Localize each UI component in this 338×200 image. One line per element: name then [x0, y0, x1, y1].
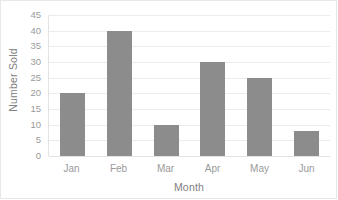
- y-axis-tick-label: 0: [36, 151, 41, 161]
- y-axis-tick-label: 5: [36, 136, 41, 146]
- x-axis-tick-label-mar: Mar: [142, 161, 189, 177]
- y-axis-tick-label: 40: [30, 26, 41, 36]
- y-axis-tick-label: 45: [30, 10, 41, 20]
- y-axis-tick-label: 15: [30, 104, 41, 114]
- x-axis-tick-label-feb: Feb: [95, 161, 142, 177]
- bar-may[interactable]: [247, 78, 272, 156]
- bar-feb[interactable]: [107, 31, 132, 156]
- y-axis-tick-label: 25: [30, 73, 41, 83]
- y-axis-tick-labels: 454035302520151050: [22, 9, 44, 159]
- bar-jun[interactable]: [294, 131, 319, 156]
- x-axis-tick-label-jan: Jan: [48, 161, 95, 177]
- bar-mar[interactable]: [154, 125, 179, 156]
- bar-apr[interactable]: [200, 62, 225, 156]
- y-axis-tick-label: 20: [30, 89, 41, 99]
- x-axis-tick-label-jun: Jun: [283, 161, 330, 177]
- y-axis-tick-label: 10: [30, 120, 41, 130]
- bar-slot: [96, 15, 143, 156]
- bar-slot: [189, 15, 236, 156]
- x-axis-tick-label-may: May: [236, 161, 283, 177]
- x-axis-tick-labels: JanFebMarAprMayJun: [48, 161, 330, 177]
- bar-chart: Number Sold 454035302520151050 JanFebMar…: [0, 0, 337, 199]
- bar-jan[interactable]: [60, 93, 85, 156]
- y-axis-title: Number Sold: [3, 1, 23, 159]
- bar-slot: [283, 15, 330, 156]
- y-axis-title-label: Number Sold: [7, 48, 19, 111]
- x-axis-tick-label-apr: Apr: [189, 161, 236, 177]
- y-axis-tick-label: 35: [30, 42, 41, 52]
- plot-area: [48, 15, 330, 156]
- y-axis-tick-label: 30: [30, 57, 41, 67]
- bar-slot: [49, 15, 96, 156]
- bar-slot: [143, 15, 190, 156]
- x-axis-title: Month: [48, 181, 330, 193]
- gridline: [49, 156, 330, 157]
- bar-slot: [236, 15, 283, 156]
- bar-series: [49, 15, 330, 156]
